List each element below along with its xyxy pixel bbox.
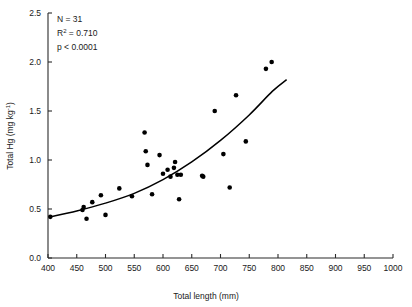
annotation-r-squared: R2 = 0.710: [57, 28, 98, 38]
y-axis-title-tail: ): [5, 102, 15, 105]
y-tick-label: 0.5: [29, 204, 41, 214]
data-point: [179, 172, 184, 177]
data-point: [99, 193, 104, 198]
y-tick-labels: 0.00.51.01.52.02.5: [29, 8, 41, 263]
x-tick-label: 600: [156, 263, 170, 273]
data-point: [221, 152, 226, 157]
data-point: [142, 130, 147, 135]
data-point: [227, 185, 232, 190]
data-point: [264, 67, 269, 72]
data-point: [234, 93, 239, 98]
data-point-group: [48, 60, 274, 221]
chart-canvas: 4004505005506006507007508008509009501000…: [0, 0, 412, 307]
data-point: [172, 166, 177, 171]
x-tick-label: 750: [242, 263, 256, 273]
annotation-r-squared-tail: = 0.710: [66, 28, 97, 38]
x-tick-labels: 4004505005506006507007508008509009501000: [41, 263, 403, 273]
y-tick-label: 0.0: [29, 253, 41, 263]
data-point: [81, 205, 86, 210]
regression-curve: [50, 80, 286, 217]
data-point: [145, 163, 150, 168]
x-tick-label: 650: [185, 263, 199, 273]
x-tick-label: 850: [300, 263, 314, 273]
data-point: [90, 200, 95, 205]
y-axis-title-base: Total Hg (mg kg: [5, 110, 15, 170]
data-point: [244, 139, 249, 144]
annotation-sample-size: N = 31: [57, 14, 83, 24]
x-tick-label: 1000: [384, 263, 403, 273]
x-tick-label: 500: [98, 263, 112, 273]
x-tick-label: 950: [357, 263, 371, 273]
data-point: [84, 217, 89, 222]
data-point: [117, 186, 122, 191]
y-axis-title: Total Hg (mg kg-1): [5, 102, 15, 170]
x-tick-label: 900: [328, 263, 342, 273]
x-axis-title: Total length (mm): [173, 291, 239, 301]
data-point: [103, 213, 108, 218]
x-tick-label: 800: [271, 263, 285, 273]
data-point: [168, 174, 173, 179]
data-point: [48, 215, 53, 220]
data-point: [201, 174, 206, 179]
data-point: [150, 192, 155, 197]
data-point: [177, 197, 182, 202]
data-point: [269, 60, 274, 65]
y-tick-label: 2.5: [29, 8, 41, 18]
data-point: [165, 168, 170, 173]
data-point: [143, 149, 148, 154]
y-tick-label: 1.0: [29, 155, 41, 165]
x-tick-label: 550: [127, 263, 141, 273]
scatter-plot-figure: 4004505005506006507007508008509009501000…: [0, 0, 412, 307]
svg-text:Total Hg (mg kg-1): Total Hg (mg kg-1): [5, 102, 15, 170]
data-point: [173, 160, 178, 165]
x-tick-label: 450: [70, 263, 84, 273]
data-point: [212, 109, 217, 114]
x-tick-label: 400: [41, 263, 55, 273]
data-point: [161, 171, 166, 176]
data-point: [130, 194, 135, 199]
y-tick-label: 1.5: [29, 106, 41, 116]
axes: [48, 13, 393, 258]
data-point: [157, 153, 162, 158]
x-tick-label: 700: [213, 263, 227, 273]
y-tick-label: 2.0: [29, 57, 41, 67]
annotation-p-value: p < 0.0001: [57, 42, 98, 52]
